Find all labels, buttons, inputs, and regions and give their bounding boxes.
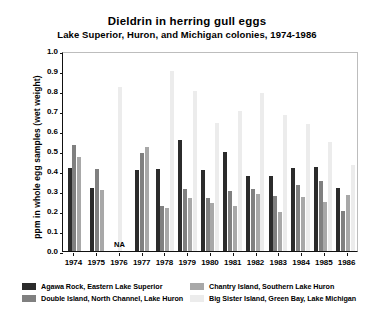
bar [314,167,318,251]
y-tick-label: 0.5 [47,147,58,156]
x-tick-label: 1975 [85,258,108,267]
y-tick-label: 0.1 [47,227,58,236]
bar [100,190,104,251]
y-tick-label: 0.0 [47,247,58,256]
chart-figure: Dieldrin in herring gull eggs Lake Super… [0,0,374,314]
x-tick-mark [278,253,279,256]
x-axis-ticks: 1974197519761977197819791980198119821983… [62,253,358,267]
x-tick-mark [187,253,188,256]
x-tick-label: 1979 [176,258,199,267]
bar [72,145,76,251]
x-tick-mark [142,253,143,256]
chart-subtitle: Lake Superior, Huron, and Michigan colon… [0,28,374,41]
y-axis-title: ppm in whole egg samples (wet weight) [32,57,42,257]
bar-group [176,53,199,251]
x-tick-mark [233,253,234,256]
x-tick: 1977 [130,253,153,267]
bar [188,198,192,251]
x-tick-mark [119,253,120,256]
chart-legend: Agawa Rock, Eastern Lake SuperiorChantry… [22,280,362,304]
bar [77,157,81,251]
bar-group [334,53,357,251]
bar [118,87,122,251]
x-tick-label: 1984 [290,258,313,267]
bar [201,170,205,251]
bar [319,181,323,251]
bar [306,124,310,251]
bar [228,191,232,251]
legend-label: Agawa Rock, Eastern Lake Superior [41,282,162,291]
x-tick-mark [347,253,348,256]
bar-group [199,53,222,251]
legend-label: Big Sister Island, Green Bay, Lake Michi… [209,294,356,303]
bar [246,176,250,251]
bar-group [289,53,312,251]
x-tick-label: 1986 [335,258,358,267]
x-tick-label: 1983 [267,258,290,267]
x-tick-label: 1974 [62,258,85,267]
x-tick-label: 1978 [153,258,176,267]
chart-title: Dieldrin in herring gull eggs [0,14,374,28]
legend-entry: Chantry Island, Southern Lake Huron [190,282,362,291]
y-tick-label: 0.2 [47,207,58,216]
x-tick-label: 1980 [199,258,222,267]
bar [183,189,187,251]
legend-label: Chantry Island, Southern Lake Huron [209,282,334,291]
x-tick: 1983 [267,253,290,267]
bar [135,170,139,251]
y-tick-label: 1.0 [47,47,58,56]
x-tick-mark [324,253,325,256]
bar [346,195,350,251]
bar [95,169,99,251]
legend-label: Double Island, North Channel, Lake Huron [41,294,183,303]
bar [90,188,94,251]
y-tick-label: 0.4 [47,167,58,176]
bar [260,93,264,251]
bar [178,140,182,251]
x-tick-mark [96,253,97,256]
bar [210,203,214,251]
bar [301,197,305,251]
bar [291,168,295,251]
x-tick-mark [301,253,302,256]
bar [165,208,169,251]
x-tick: 1979 [176,253,199,267]
bar [238,111,242,251]
y-tick-label: 0.9 [47,67,58,76]
bar [68,168,72,251]
x-tick: 1975 [85,253,108,267]
x-tick-label: 1982 [244,258,267,267]
bar-group [221,53,244,251]
bar-group [131,53,154,251]
bar [145,147,149,251]
bar-group [86,53,109,251]
x-tick-label: 1981 [221,258,244,267]
x-tick-label: 1985 [312,258,335,267]
bar [206,198,210,251]
x-tick: 1976 [108,253,131,267]
title-block: Dieldrin in herring gull eggs Lake Super… [0,14,374,41]
bar [223,152,227,251]
bar [273,196,277,251]
bar-group [153,53,176,251]
bar [323,202,327,251]
bar [156,169,160,251]
bar-group [63,53,86,251]
bar-group [266,53,289,251]
plot-area: 1.00.90.80.70.60.50.40.30.20.10.0 NA [62,52,358,252]
y-tick-label: 0.6 [47,127,58,136]
legend-swatch [190,283,204,290]
bar [351,165,355,251]
legend-entry: Agawa Rock, Eastern Lake Superior [22,282,190,291]
x-tick-mark [164,253,165,256]
y-tick-label: 0.8 [47,87,58,96]
legend-swatch [22,295,36,302]
x-tick-mark [210,253,211,256]
legend-swatch [22,283,36,290]
bar-group [244,53,267,251]
na-annotation: NA [108,240,131,249]
bar [233,206,237,251]
bar [283,115,287,251]
x-tick-mark [73,253,74,256]
bar-groups: NA [63,53,357,251]
